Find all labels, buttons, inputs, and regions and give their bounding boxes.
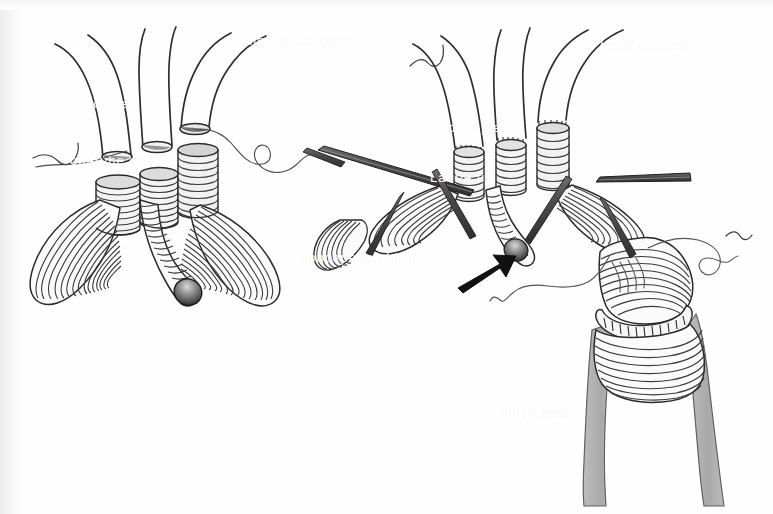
surgical-illustration-svg	[0, 0, 773, 514]
left-graft-body	[30, 200, 280, 310]
left-great-vessels	[55, 27, 266, 158]
right-great-vessels	[413, 28, 623, 148]
suture-thread-left-tail	[33, 143, 78, 165]
retractor-bar-right	[596, 173, 691, 182]
direction-arrow	[458, 255, 516, 293]
distal-graft-limb	[583, 238, 724, 506]
right-graft-central-tube	[486, 186, 535, 266]
illustration-canvas: nigdhy obsipqodiLeah e novehieno otypenm…	[0, 0, 773, 514]
suture-thread-left-main	[36, 130, 310, 173]
right-panel-group	[303, 28, 752, 506]
left-panel-group	[30, 27, 310, 310]
retractor-bar-left	[318, 146, 474, 196]
